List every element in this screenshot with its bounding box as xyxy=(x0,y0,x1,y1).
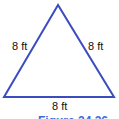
left-side-label: 8 ft xyxy=(12,41,27,52)
right-side-label: 8 ft xyxy=(88,41,103,52)
bottom-side-label: 8 ft xyxy=(52,101,67,112)
figure-caption: Figure 24.26 xyxy=(38,114,108,119)
